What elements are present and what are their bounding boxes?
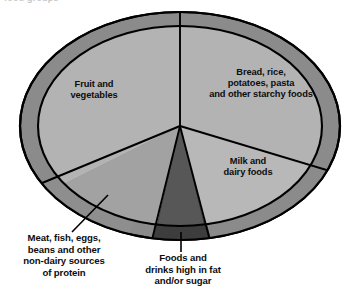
plate-segments <box>2 2 352 262</box>
label-fruit-and-vegetables: Fruit and vegetables <box>46 79 142 101</box>
label-milk-and-dairy: Milk and dairy foods <box>196 156 300 178</box>
label-starchy-foods: Bread, rice, potatoes, pasta and other s… <box>188 67 334 101</box>
diagram-canvas: food groups <box>0 0 353 304</box>
label-fats-and-sugar: Foods and drinks high in fat and/or suga… <box>122 252 244 287</box>
label-meat-and-protein: Meat, fish, eggs, beans and other non-da… <box>2 232 126 278</box>
